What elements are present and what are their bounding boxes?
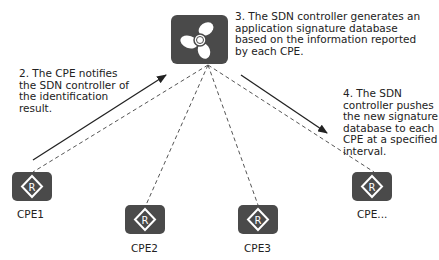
dashed-link-cpe2 bbox=[146, 65, 208, 205]
cpe1-node: R bbox=[12, 172, 52, 201]
step4-line: 4. The SDN bbox=[343, 88, 438, 100]
sdn-controller-node bbox=[171, 15, 228, 64]
cpe3-label: CPE3 bbox=[244, 242, 271, 254]
step3-line: 3. The SDN controller generates an bbox=[235, 11, 420, 23]
step4-note: 4. The SDN controller pushes the new sig… bbox=[343, 88, 438, 157]
router-icon: R bbox=[125, 205, 165, 234]
cpe1-label: CPE1 bbox=[17, 208, 44, 220]
step3-line: by each CPE. bbox=[235, 46, 420, 58]
step3-line: based on the information reported bbox=[235, 34, 420, 46]
router-icon: R bbox=[352, 172, 392, 201]
cpe2-node: R bbox=[125, 205, 165, 234]
step2-note: 2. The CPE notifies the SDN controller o… bbox=[19, 68, 129, 114]
svg-text:R: R bbox=[29, 182, 36, 193]
cpe-more-label: CPE... bbox=[357, 208, 387, 220]
step3-note: 3. The SDN controller generates an appli… bbox=[235, 11, 420, 57]
arrow-step4-push bbox=[241, 75, 327, 133]
svg-text:R: R bbox=[142, 215, 149, 226]
dashed-link-cpe3 bbox=[208, 65, 258, 205]
sdn-signature-diagram: 2. The CPE notifies the SDN controller o… bbox=[0, 0, 439, 260]
cpe2-label: CPE2 bbox=[131, 242, 158, 254]
step2-line: 2. The CPE notifies bbox=[19, 68, 129, 80]
cpe3-node: R bbox=[238, 205, 278, 234]
step4-line: interval. bbox=[343, 146, 438, 158]
svg-text:R: R bbox=[369, 182, 376, 193]
cpe-more-node: R bbox=[352, 172, 392, 201]
router-icon: R bbox=[12, 172, 52, 201]
fan-icon bbox=[171, 15, 228, 64]
step4-line: CPE at a specified bbox=[343, 134, 438, 146]
step4-line: the new signature bbox=[343, 111, 438, 123]
step2-line: result. bbox=[19, 103, 129, 115]
step2-line: the identification bbox=[19, 91, 129, 103]
svg-text:R: R bbox=[255, 215, 262, 226]
router-icon: R bbox=[238, 205, 278, 234]
